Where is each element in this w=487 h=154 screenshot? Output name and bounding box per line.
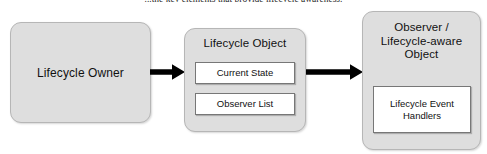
subbox-current-state-label: Current State xyxy=(217,67,274,79)
subbox-lifecycle-event-handlers: Lifecycle EventHandlers xyxy=(373,86,471,133)
arrow-object-to-observer-icon xyxy=(306,62,364,82)
node-lifecycle-owner: Lifecycle Owner xyxy=(10,22,151,123)
node-lifecycle-owner-title: Lifecycle Owner xyxy=(11,67,150,81)
diagram-canvas: ...the key elements that provide lifecyc… xyxy=(0,0,487,154)
node-lifecycle-object-title: Lifecycle Object xyxy=(185,37,305,51)
caption-text: ...the key elements that provide lifecyc… xyxy=(0,0,487,2)
node-observer-object-title: Observer /Lifecycle-awareObject xyxy=(363,21,480,62)
subbox-observer-list-label: Observer List xyxy=(217,98,274,110)
subbox-current-state: Current State xyxy=(195,62,295,84)
subbox-observer-list: Observer List xyxy=(195,93,295,115)
subbox-lifecycle-event-handlers-label: Lifecycle EventHandlers xyxy=(390,98,454,121)
arrow-owner-to-object-icon xyxy=(150,62,186,82)
